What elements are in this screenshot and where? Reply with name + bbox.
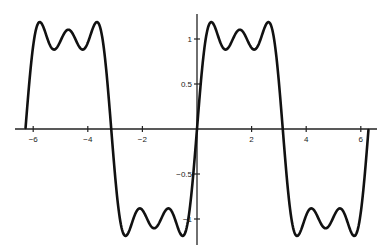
plot-svg: −6−4−2246 10.5−0.5−1 [0,0,386,252]
chart-container: −6−4−2246 10.5−0.5−1 [0,0,386,252]
x-tick-label: −6 [29,135,39,144]
x-tick-label: −4 [83,135,93,144]
y-tick-label: −0.5 [176,170,192,179]
x-tick-label: 6 [359,135,364,144]
x-tick-label: −2 [138,135,148,144]
x-tick-label: 4 [304,135,309,144]
x-tick-label: 2 [249,135,254,144]
y-tick-label: 1 [188,35,193,44]
y-tick-label: 0.5 [181,80,193,89]
